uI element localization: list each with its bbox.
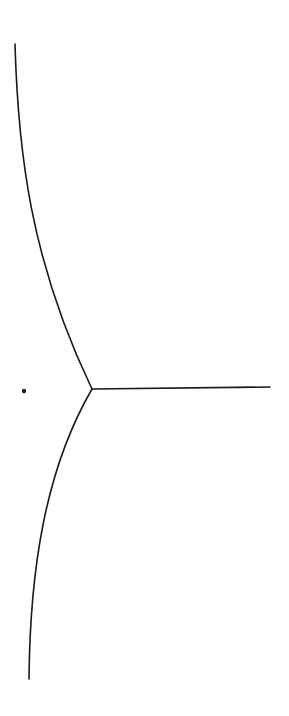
background [0,0,289,716]
diagram-svg [0,0,289,716]
isolated-point [22,389,26,393]
diagram-canvas [0,0,289,716]
